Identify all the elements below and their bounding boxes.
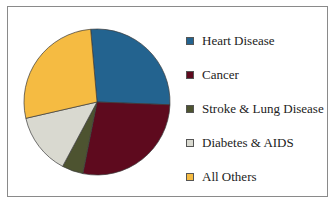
legend-swatch-icon <box>186 173 194 181</box>
pie-slice-heart-disease <box>91 29 170 105</box>
legend: Heart Disease Cancer Stroke & Lung Disea… <box>186 24 324 194</box>
legend-item-stroke-lung-disease: Stroke & Lung Disease <box>186 92 324 126</box>
legend-swatch-icon <box>186 37 194 45</box>
legend-item-heart-disease: Heart Disease <box>186 24 324 58</box>
legend-item-all-others: All Others <box>186 160 324 194</box>
pie-slice-cancer <box>83 102 170 175</box>
legend-swatch-icon <box>186 71 194 79</box>
legend-item-diabetes-aids: Diabetes & AIDS <box>186 126 324 160</box>
legend-swatch-icon <box>186 139 194 147</box>
legend-item-cancer: Cancer <box>186 58 324 92</box>
legend-swatch-icon <box>186 105 194 113</box>
